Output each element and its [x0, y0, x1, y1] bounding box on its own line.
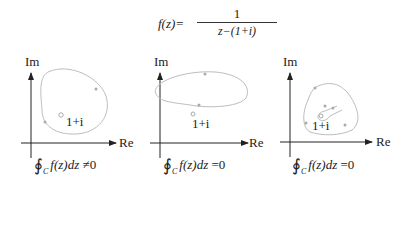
- panel-1-integral: ∮Cf(z)dz ≠0: [34, 157, 96, 180]
- panel-2-re-label: Re: [249, 136, 263, 150]
- panel-2-im-label: Im: [154, 55, 168, 69]
- panel-3-point-label: 1+i: [312, 119, 329, 133]
- panel-2-contour: [155, 72, 247, 107]
- panel-3-integral: ∮Cf(z)dz =0: [292, 157, 354, 180]
- panel-1-re-label: Re: [119, 136, 133, 150]
- panel-1-pole: [59, 113, 63, 117]
- panel-2-point-label: 1+i: [192, 117, 209, 131]
- panel-1-point-label: 1+i: [66, 115, 83, 129]
- contour-integral-symbol: ∮: [34, 156, 43, 175]
- panel-2-integral: ∮Cf(z)dz =0: [163, 157, 225, 180]
- panel-3-re-label: Re: [376, 135, 390, 149]
- panel-3-im-label: Im: [283, 55, 297, 69]
- panel-1-im-label: Im: [25, 55, 39, 69]
